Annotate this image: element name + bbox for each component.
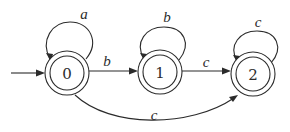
state-0: 0: [45, 51, 89, 95]
state-label-0: 0: [62, 65, 72, 83]
start-arrow: [11, 70, 45, 77]
state-1: 1: [138, 50, 182, 94]
state-2: 2: [231, 52, 275, 96]
edge-0-2: c: [75, 95, 238, 123]
edge-label-1-1: b: [163, 9, 171, 25]
edge-label-0-0: a: [80, 6, 88, 22]
automaton-diagram: a b b c c c 0 1: [0, 0, 290, 132]
edge-1-2: c: [182, 54, 231, 75]
edge-label-0-2: c: [151, 107, 158, 123]
edge-label-2-2: c: [255, 14, 262, 30]
state-label-2: 2: [248, 66, 258, 84]
edge-0-1: b: [89, 53, 138, 75]
edge-label-1-2: c: [203, 54, 210, 70]
state-label-1: 1: [155, 64, 165, 82]
edge-label-0-1: b: [103, 53, 111, 69]
